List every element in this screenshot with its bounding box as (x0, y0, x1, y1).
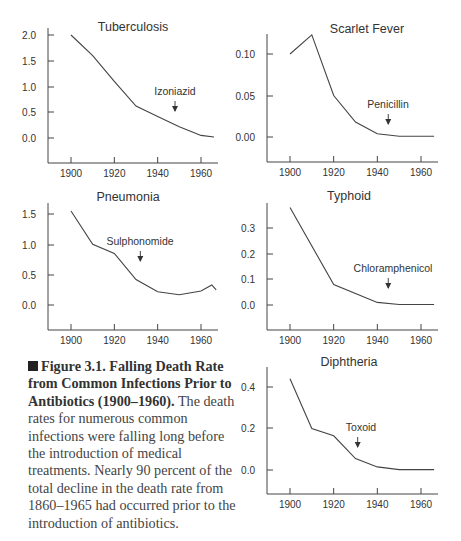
y-tick-label: 0.00 (236, 132, 256, 143)
chart-scarlet-fever: Scarlet Fever0.100.050.00190019201940196… (236, 22, 438, 178)
y-tick-label: 0.0 (22, 300, 36, 311)
annotation-label: Penicillin (367, 98, 409, 110)
chart-typhoid: Typhoid0.30.20.10.01900192019401960Chlor… (241, 189, 438, 346)
x-tick-label: 1940 (366, 335, 389, 346)
annotation-label: Toxoid (346, 421, 377, 433)
square-bullet-icon (28, 361, 38, 371)
y-tick-label: 0.0 (22, 133, 36, 144)
chart-title: Tuberculosis (98, 20, 168, 34)
data-line (290, 35, 434, 136)
y-tick-label: 1.5 (22, 209, 36, 220)
y-tick-label: 2.0 (22, 30, 36, 41)
chart-title: Typhoid (327, 189, 371, 203)
chart-tuberculosis: Tuberculosis2.01.51.00.50.01900192019401… (22, 20, 218, 179)
y-tick-label: 0.4 (241, 382, 255, 393)
y-tick-label: 0.0 (241, 300, 255, 311)
x-tick-label: 1940 (366, 167, 389, 178)
annotation-label: Izoniazid (154, 85, 196, 97)
y-tick-label: 0.1 (241, 274, 255, 285)
figure-caption: Figure 3.1. Falling Death Rate from Comm… (28, 358, 238, 532)
x-tick-label: 1900 (279, 499, 302, 510)
y-tick-label: 0.10 (236, 49, 256, 60)
y-tick-label: 1.0 (22, 82, 36, 93)
chart-pneumonia: Pneumonia1.51.00.50.01900192019401960Sul… (22, 190, 218, 346)
y-tick-label: 0.3 (241, 223, 255, 234)
x-tick-label: 1940 (147, 168, 170, 179)
chart-diphtheria: Diphtheria0.40.20.01900192019401960Toxoi… (241, 355, 438, 510)
x-tick-label: 1960 (410, 499, 433, 510)
x-tick-label: 1900 (60, 335, 83, 346)
annotation-label: Sulphonomide (106, 235, 173, 247)
x-tick-label: 1960 (190, 168, 213, 179)
y-tick-label: 0.5 (22, 270, 36, 281)
x-tick-label: 1920 (323, 499, 346, 510)
x-tick-label: 1920 (103, 335, 126, 346)
chart-title: Scarlet Fever (330, 22, 404, 36)
data-line (71, 211, 216, 295)
y-tick-label: 0.2 (241, 249, 255, 260)
x-tick-label: 1960 (410, 167, 433, 178)
x-tick-label: 1900 (279, 335, 302, 346)
y-tick-label: 0.0 (241, 465, 255, 476)
y-tick-label: 0.2 (241, 423, 255, 434)
x-tick-label: 1920 (103, 168, 126, 179)
y-tick-label: 1.5 (22, 56, 36, 67)
caption-body: The death rates for numerous common infe… (28, 393, 236, 531)
x-tick-label: 1920 (323, 335, 346, 346)
y-tick-label: 1.0 (22, 240, 36, 251)
x-tick-label: 1900 (60, 168, 83, 179)
x-tick-label: 1940 (147, 335, 170, 346)
axes (48, 203, 218, 330)
axes (267, 34, 438, 162)
y-tick-label: 0.05 (236, 91, 256, 102)
chart-title: Pneumonia (96, 190, 159, 204)
x-tick-label: 1940 (366, 499, 389, 510)
x-tick-label: 1920 (323, 167, 346, 178)
x-tick-label: 1960 (190, 335, 213, 346)
x-tick-label: 1900 (279, 167, 302, 178)
chart-title: Diphtheria (321, 355, 378, 369)
annotation-label: Chloramphenicol (354, 262, 433, 274)
data-line (290, 208, 434, 305)
x-tick-label: 1960 (410, 335, 433, 346)
y-tick-label: 0.5 (22, 107, 36, 118)
